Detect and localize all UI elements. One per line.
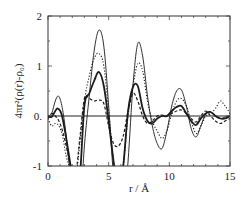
y-axis-label: 4πr²(ρ(r)-ρ₀): [12, 63, 25, 118]
series-line-thick-solid: [48, 72, 230, 193]
series-line-thin-solid: [48, 30, 230, 206]
x-axis-label: r / Å: [129, 182, 149, 194]
x-tick-label: 15: [225, 170, 237, 182]
y-tick-label: 1: [37, 60, 43, 72]
series-layer: [48, 30, 230, 206]
x-tick-label: 5: [106, 170, 112, 182]
x-tick-label: 0: [45, 170, 51, 182]
x-tick-label: 10: [164, 170, 176, 182]
y-tick-labels: -10.12: [33, 10, 42, 172]
y-tick-label: 2: [37, 10, 43, 22]
x-tick-labels: 051015: [45, 170, 236, 182]
y-tick-label: -1: [33, 160, 42, 172]
series-line-dashed: [48, 93, 230, 172]
y-tick-label: 0.: [34, 110, 43, 122]
chart: 051015 -10.12 r / Å 4πr²(ρ(r)-ρ₀): [0, 0, 245, 206]
